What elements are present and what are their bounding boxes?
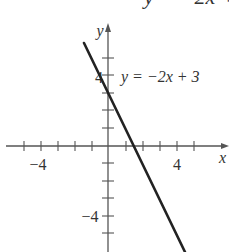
x-tick-label-neg4: −4	[29, 156, 46, 173]
line-equation-label: y = −2x + 3	[119, 68, 200, 86]
line-graph: y = −2x + 3 x −4 4	[0, 0, 229, 252]
x-tick-label-4: 4	[173, 156, 181, 173]
y-axis-arrow-icon	[105, 23, 111, 32]
y-tick-label-neg4: −4	[81, 208, 98, 225]
x-axis: x −4 4	[6, 141, 229, 173]
x-axis-label: x	[218, 149, 226, 166]
chart-title: y = −2x + 3	[142, 0, 229, 9]
y-axis: y 4 −4	[81, 22, 114, 252]
y-axis-label: y	[94, 22, 104, 40]
